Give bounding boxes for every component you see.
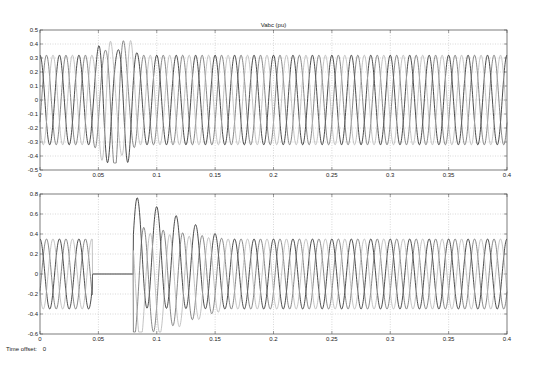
y-tick-label: 0 <box>35 97 39 103</box>
y-tick-label: -0.2 <box>28 291 39 297</box>
scope-figure: 00.050.10.150.20.250.30.350.4-0.5-0.4-0.… <box>0 0 535 377</box>
y-tick-label: -0.1 <box>28 111 39 117</box>
x-tick-label: 0.2 <box>269 172 278 178</box>
x-tick-label: 0 <box>38 336 42 342</box>
y-tick-label: 0.3 <box>30 55 39 61</box>
y-tick-label: -0.2 <box>28 125 39 131</box>
y-tick-label: 0.5 <box>30 27 39 33</box>
x-tick-label: 0.05 <box>93 336 105 342</box>
y-tick-label: 0.4 <box>30 231 39 237</box>
y-tick-label: 0 <box>35 271 39 277</box>
time-offset-value: 0 <box>43 346 46 352</box>
x-tick-label: 0.15 <box>209 172 221 178</box>
x-tick-label: 0.35 <box>443 336 455 342</box>
x-tick-label: 0 <box>38 172 42 178</box>
y-tick-label: 0.2 <box>30 251 39 257</box>
x-tick-label: 0.4 <box>503 172 512 178</box>
x-tick-label: 0.1 <box>153 172 162 178</box>
y-tick-label: -0.6 <box>28 331 39 337</box>
plot-title: Vabc (pu) <box>261 22 287 28</box>
y-tick-label: -0.4 <box>28 311 39 317</box>
x-tick-label: 0.05 <box>93 172 105 178</box>
y-tick-label: -0.3 <box>28 139 39 145</box>
x-tick-label: 0.25 <box>326 172 338 178</box>
x-tick-label: 0.15 <box>209 336 221 342</box>
x-tick-label: 0.25 <box>326 336 338 342</box>
y-tick-label: 0.2 <box>30 69 39 75</box>
y-tick-label: 0.6 <box>30 211 39 217</box>
x-tick-label: 0.3 <box>386 336 395 342</box>
x-tick-label: 0.2 <box>269 336 278 342</box>
time-offset-label: Time offset: <box>6 346 37 352</box>
y-tick-label: 0.8 <box>30 191 39 197</box>
y-tick-label: 0.4 <box>30 41 39 47</box>
current-plot: 00.050.10.150.20.250.30.350.4-0.6-0.4-0.… <box>28 191 512 342</box>
x-tick-label: 0.35 <box>443 172 455 178</box>
y-tick-label: 0.1 <box>30 83 39 89</box>
y-tick-label: -0.4 <box>28 153 39 159</box>
voltage-plot: 00.050.10.150.20.250.30.350.4-0.5-0.4-0.… <box>28 22 512 178</box>
x-tick-label: 0.4 <box>503 336 512 342</box>
x-tick-label: 0.3 <box>386 172 395 178</box>
y-tick-label: -0.5 <box>28 167 39 173</box>
time-offset: Time offset: 0 <box>6 346 50 352</box>
x-tick-label: 0.1 <box>153 336 162 342</box>
